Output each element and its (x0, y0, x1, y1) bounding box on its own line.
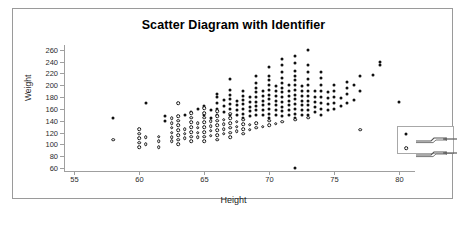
legend-marker-filled-circle-icon (405, 133, 408, 136)
scatter-point (164, 114, 167, 117)
y-axis-title: Weight (23, 75, 33, 101)
y-axis-tick (60, 133, 64, 134)
scatter-point (229, 131, 233, 135)
scatter-point (138, 146, 142, 150)
scatter-point (164, 119, 167, 122)
scatter-point (248, 114, 251, 117)
scatter-point (170, 131, 174, 135)
scatter-point (157, 135, 161, 139)
scatter-point (170, 117, 174, 121)
y-axis-tick-label: 200 (45, 81, 58, 90)
scatter-point (359, 75, 362, 78)
y-axis-tick-label: 160 (45, 104, 58, 113)
y-axis-tick (60, 109, 64, 110)
y-axis-tick-label: 120 (45, 128, 58, 137)
scatter-point (352, 99, 355, 102)
scatter-point (268, 124, 272, 128)
scatter-point (255, 96, 258, 99)
scatter-point (255, 81, 258, 84)
scatter-point (346, 81, 349, 84)
scatter-point (281, 71, 284, 74)
scatter-point (255, 75, 258, 78)
y-axis-tick-label: 260 (45, 45, 58, 54)
scatter-point (235, 125, 239, 129)
scatter-point (177, 101, 181, 105)
scatter-point (268, 88, 271, 91)
x-axis-tick-label: 60 (135, 175, 143, 184)
scatter-point (287, 94, 290, 97)
scatter-point (307, 48, 310, 51)
scatter-point (196, 131, 200, 135)
scatter-point (209, 124, 213, 128)
scatter-point (216, 138, 220, 142)
scatter-point (281, 105, 284, 108)
scatter-point (300, 99, 303, 102)
scatter-point (359, 128, 363, 132)
x-axis-tick-label: 70 (265, 175, 273, 184)
scatter-point (222, 118, 226, 122)
x-axis-tick-label: 75 (330, 175, 338, 184)
scatter-point (235, 120, 239, 124)
scatter-point (261, 99, 264, 102)
scatter-point (255, 86, 258, 89)
scatter-point (320, 96, 323, 99)
y-axis-tick (60, 121, 64, 122)
scatter-point (346, 87, 349, 90)
scatter-point (274, 122, 278, 126)
legend-label-smudge (413, 144, 459, 152)
scatter-point (183, 113, 186, 116)
scatter-point (294, 98, 297, 101)
scatter-point (196, 126, 200, 130)
y-axis-line (64, 45, 65, 171)
scatter-point (112, 138, 116, 142)
scatter-point (112, 116, 115, 119)
scatter-point (333, 101, 336, 104)
scatter-point (242, 132, 246, 136)
y-axis-tick-label: 240 (45, 57, 58, 66)
scatter-point (229, 126, 233, 130)
scatter-point (177, 133, 181, 137)
scatter-point (216, 128, 220, 132)
scatter-point (209, 134, 213, 138)
scatter-point (222, 132, 226, 136)
scatter-point (294, 103, 297, 106)
scatter-point (294, 107, 297, 110)
scatter-point (307, 104, 310, 107)
scatter-point (307, 109, 310, 112)
scatter-point (248, 105, 251, 108)
scatter-point (229, 107, 232, 110)
scatter-point (326, 109, 329, 112)
scatter-point (287, 109, 290, 112)
scatter-point (203, 121, 207, 125)
scatter-point (203, 140, 207, 144)
scatter-point (248, 110, 251, 113)
scatter-point (222, 127, 226, 131)
scatter-point (242, 94, 245, 97)
scatter-point (157, 140, 161, 144)
scatter-point (287, 84, 290, 87)
scatter-point (378, 63, 381, 66)
x-axis-tick-label: 80 (395, 175, 403, 184)
scatter-point (203, 125, 207, 129)
scatter-point (300, 85, 303, 88)
scatter-point (274, 94, 277, 97)
scatter-point (346, 93, 349, 96)
scatter-point (190, 130, 194, 134)
scatter-point (287, 113, 290, 116)
scatter-point (183, 127, 187, 131)
scatter-point (320, 107, 323, 110)
scatter-point (255, 121, 259, 125)
scatter-point (300, 94, 303, 97)
scatter-point (307, 78, 310, 81)
scatter-point (157, 146, 161, 150)
legend-entry-filled (398, 127, 453, 141)
scatter-point (313, 96, 316, 99)
scatter-point (268, 107, 271, 110)
scatter-point (313, 110, 316, 113)
scatter-point (190, 121, 194, 125)
y-axis-tick-label: 220 (45, 69, 58, 78)
scatter-point (229, 98, 232, 101)
scatter-point (190, 125, 194, 129)
scatter-point (281, 57, 284, 60)
legend-entry-open (398, 141, 453, 155)
